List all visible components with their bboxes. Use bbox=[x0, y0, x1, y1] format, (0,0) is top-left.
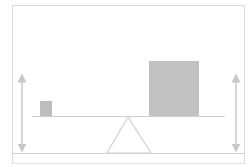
right-large-block bbox=[149, 61, 199, 116]
fulcrum-triangle bbox=[107, 117, 151, 153]
diagram-canvas bbox=[0, 0, 250, 167]
seesaw-diagram bbox=[0, 0, 250, 167]
left-small-block bbox=[40, 101, 52, 116]
